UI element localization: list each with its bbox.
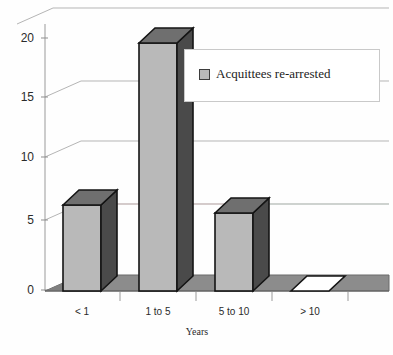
bar-front-face xyxy=(63,205,101,291)
chart-legend: Acquittees re-arrested xyxy=(184,49,380,102)
bar-side-face xyxy=(253,198,269,291)
y-tick-label-15: 15 xyxy=(8,91,34,103)
bar-side-face xyxy=(101,190,117,291)
bar-chart: 20 15 10 5 0 < 1 1 to 5 5 to 10 > 10 Yea… xyxy=(0,0,393,355)
y-tick-label-20: 20 xyxy=(8,32,34,44)
x-tick-marks xyxy=(120,292,348,301)
bar-front-face xyxy=(215,213,253,291)
bar-5-to-10 xyxy=(215,198,269,291)
gridline-top xyxy=(17,8,389,24)
y-tick-label-5: 5 xyxy=(8,214,34,226)
y-tick-label-0: 0 xyxy=(8,284,34,296)
x-tick-label-5-to-10: 5 to 10 xyxy=(204,306,264,317)
x-tick-label-1-to-5: 1 to 5 xyxy=(128,306,188,317)
legend-entry-label: Acquittees re-arrested xyxy=(216,66,330,82)
y-tick-label-10: 10 xyxy=(8,151,34,163)
x-tick-label-lt-1: < 1 xyxy=(52,306,112,317)
bar-front-face xyxy=(139,43,177,291)
bar-lt-1 xyxy=(63,190,117,291)
gridline-10 xyxy=(45,141,389,157)
x-axis-title: Years xyxy=(137,326,257,337)
legend-swatch-icon xyxy=(199,69,210,80)
legend-entry: Acquittees re-arrested xyxy=(199,66,330,82)
gridlines xyxy=(17,8,389,220)
x-tick-label-gt-10: > 10 xyxy=(280,306,340,317)
